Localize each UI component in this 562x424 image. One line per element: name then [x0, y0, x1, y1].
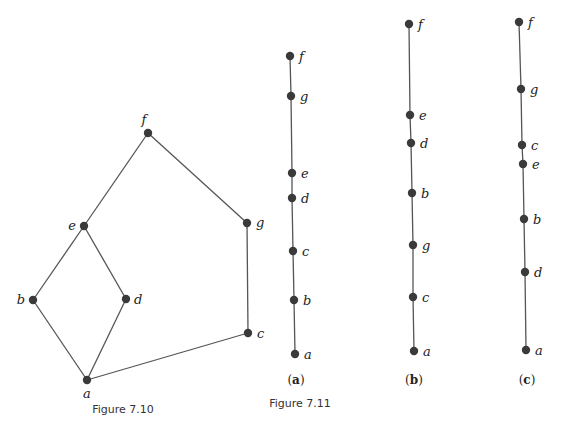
- node-a: [83, 376, 91, 384]
- edge-d-e: [84, 226, 126, 299]
- node-label-a: a: [304, 347, 312, 362]
- node-label-f: f: [417, 17, 425, 32]
- edge-d-b: [411, 143, 412, 193]
- edge-b-d: [524, 219, 525, 272]
- node-d: [122, 295, 130, 303]
- edge-c-a: [87, 333, 248, 380]
- edge-a-b: [33, 300, 87, 380]
- node-label-f: f: [298, 49, 306, 64]
- node-c: [244, 329, 252, 337]
- figure-7-10-caption: Figure 7.10: [92, 403, 154, 416]
- node-c: [518, 141, 526, 149]
- node-a: [410, 347, 418, 355]
- node-label-g: g: [530, 82, 538, 97]
- edge-e-d: [410, 115, 411, 143]
- edge-g-e: [291, 96, 292, 173]
- node-label-g: g: [300, 89, 308, 104]
- node-label-d: d: [534, 265, 542, 280]
- edge-d-c: [292, 198, 293, 251]
- node-d: [407, 139, 415, 147]
- edge-f-e: [409, 24, 410, 115]
- node-label-d: d: [301, 191, 309, 206]
- node-label-a: a: [83, 386, 91, 401]
- edge-c-b: [293, 251, 294, 300]
- node-label-g: g: [422, 238, 430, 253]
- node-g: [409, 241, 417, 249]
- node-e: [519, 160, 527, 168]
- node-b: [520, 215, 528, 223]
- node-e: [288, 169, 296, 177]
- node-label-g: g: [256, 215, 264, 230]
- edge-b-a: [294, 300, 295, 354]
- chain-b: fedbgca(b): [405, 17, 431, 387]
- figure-7-10-hasse-diagram: fegbdca: [17, 112, 265, 401]
- edge-e-f: [84, 133, 148, 226]
- node-f: [405, 20, 413, 28]
- figure-7-11-caption: Figure 7.11: [269, 397, 331, 410]
- node-a: [291, 350, 299, 358]
- node-label-e: e: [419, 108, 427, 123]
- figure-7-11-linear-extensions: fgedcba(a)fedbgca(b)fgcebda(c): [286, 15, 543, 387]
- node-label-c: c: [257, 326, 265, 341]
- edge-f-g: [290, 56, 291, 96]
- subfigure-label-a: (a): [287, 373, 304, 387]
- node-label-c: c: [422, 290, 430, 305]
- node-label-d: d: [420, 136, 428, 151]
- node-b: [290, 296, 298, 304]
- edge-c-a: [413, 297, 414, 351]
- node-a: [522, 346, 530, 354]
- node-g: [243, 219, 251, 227]
- node-g: [287, 92, 295, 100]
- node-f: [144, 129, 152, 137]
- node-d: [521, 268, 529, 276]
- edge-d-a: [525, 272, 526, 350]
- subfigure-label-b: (b): [405, 373, 423, 387]
- node-label-b: b: [533, 212, 541, 227]
- figure-page: fegbdca Figure 7.10 fgedcba(a)fedbgca(b)…: [0, 0, 562, 424]
- node-label-a: a: [535, 343, 543, 358]
- edge-g-c: [247, 223, 248, 333]
- edge-e-b: [523, 164, 524, 219]
- node-label-c: c: [531, 138, 539, 153]
- node-g: [517, 85, 525, 93]
- edge-g-c: [521, 89, 522, 145]
- node-label-f: f: [527, 15, 535, 30]
- node-e: [406, 111, 414, 119]
- node-c: [409, 293, 417, 301]
- node-label-b: b: [17, 292, 25, 307]
- node-d: [288, 194, 296, 202]
- diagram-canvas: fegbdca Figure 7.10 fgedcba(a)fedbgca(b)…: [0, 0, 562, 424]
- node-label-f: f: [141, 112, 149, 127]
- node-e: [80, 222, 88, 230]
- edge-f-g: [148, 133, 247, 223]
- node-label-e: e: [301, 166, 309, 181]
- node-f: [515, 18, 523, 26]
- subfigure-label-c: (c): [519, 373, 536, 387]
- node-label-b: b: [303, 293, 311, 308]
- node-label-c: c: [302, 244, 310, 259]
- node-label-e: e: [532, 157, 540, 172]
- edge-a-d: [87, 299, 126, 380]
- node-label-d: d: [134, 292, 142, 307]
- edge-b-g: [412, 193, 413, 245]
- edge-b-e: [33, 226, 84, 300]
- chain-c: fgcebda(c): [515, 15, 543, 387]
- node-b: [408, 189, 416, 197]
- node-label-b: b: [421, 186, 429, 201]
- node-f: [286, 52, 294, 60]
- node-c: [289, 247, 297, 255]
- edge-f-g: [519, 22, 521, 89]
- node-label-e: e: [68, 218, 76, 233]
- chain-a: fgedcba(a): [286, 49, 312, 387]
- node-label-a: a: [423, 344, 431, 359]
- node-b: [29, 296, 37, 304]
